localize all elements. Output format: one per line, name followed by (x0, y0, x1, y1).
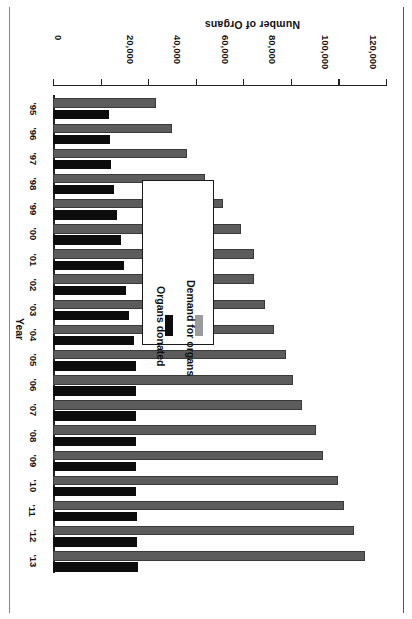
value-tick-label: 100,000 (320, 35, 331, 69)
category-label: '09 (27, 454, 38, 467)
bar-demand-for-organs (53, 526, 354, 535)
bar-organs-donated (53, 135, 110, 144)
bar-organs-donated (53, 110, 109, 119)
value-tick (196, 79, 197, 86)
bar-demand-for-organs (53, 124, 172, 133)
bar-group (53, 271, 386, 296)
bar-organs-donated (53, 210, 117, 219)
bar-organs-donated (53, 512, 137, 521)
category-label: '99 (27, 203, 38, 216)
value-tick (386, 79, 387, 86)
category-label: '95 (27, 102, 38, 115)
bar-organs-donated (53, 261, 124, 270)
bar-chart: 020,00040,00060,00080,000100,000120,0001… (26, 25, 386, 573)
bar-organs-donated (53, 411, 136, 420)
value-axis-line (54, 85, 386, 86)
legend-label-demand: Demand for organs (185, 280, 197, 376)
bar-organs-donated (53, 437, 136, 446)
category-label: '04 (27, 329, 38, 342)
category-axis-title: Year (14, 318, 26, 340)
bar-group (53, 246, 386, 271)
bar-organs-donated (53, 235, 121, 244)
bar-group (53, 221, 386, 246)
bar-organs-donated (53, 336, 134, 345)
value-tick-label: 0 (53, 35, 64, 40)
category-label: '97 (27, 152, 38, 165)
value-axis-title: Number of Organs (205, 19, 300, 31)
rotated-scan-content: 020,00040,00060,00080,000100,000120,0001… (0, 0, 412, 619)
value-tick (338, 79, 339, 86)
bar-organs-donated (53, 185, 114, 194)
bar-organs-donated (53, 311, 129, 320)
category-label: '03 (27, 303, 38, 316)
category-label: '98 (27, 178, 38, 191)
chart-legend: Demand for organs Organs donated (142, 180, 214, 345)
value-tick-label: 20,000 (125, 35, 136, 64)
category-label: '07 (27, 404, 38, 417)
bar-demand-for-organs (53, 149, 187, 158)
category-label: '00 (27, 228, 38, 241)
category-label: '13 (27, 555, 38, 568)
category-label: '02 (27, 278, 38, 291)
scan-border-right (9, 7, 10, 613)
value-tick-label: 40,000 (172, 35, 183, 64)
plot-area (53, 95, 386, 573)
bar-group (53, 548, 386, 573)
chart-page: 020,00040,00060,00080,000100,000120,0001… (0, 0, 412, 619)
scan-border-left (403, 7, 404, 613)
category-label: '08 (27, 429, 38, 442)
value-tick (243, 79, 244, 86)
bar-demand-for-organs (53, 98, 156, 107)
value-tick (291, 79, 292, 86)
bar-demand-for-organs (53, 451, 323, 460)
bar-group (53, 372, 386, 397)
value-tick-label: 80,000 (267, 35, 278, 64)
value-tick (53, 79, 54, 86)
legend-item-donated: Organs donated (165, 315, 173, 336)
category-label: '12 (27, 530, 38, 543)
bar-organs-donated (53, 286, 126, 295)
legend-label-donated: Organs donated (155, 286, 167, 367)
bar-group (53, 120, 386, 145)
category-label: '96 (27, 127, 38, 140)
category-label: '05 (27, 354, 38, 367)
category-label: '06 (27, 379, 38, 392)
bar-organs-donated (53, 462, 136, 471)
value-tick-label: 60,000 (220, 35, 231, 64)
bar-demand-for-organs (53, 501, 344, 510)
value-tick-label: 120,000 (368, 35, 379, 69)
bar-group (53, 95, 386, 120)
value-tick (101, 79, 102, 86)
bar-group (53, 422, 386, 447)
category-label: '10 (27, 479, 38, 492)
bar-group (53, 498, 386, 523)
bar-organs-donated (53, 160, 111, 169)
bar-group (53, 347, 386, 372)
bar-group (53, 296, 386, 321)
bar-organs-donated (53, 361, 136, 370)
bar-organs-donated (53, 537, 137, 546)
bar-demand-for-organs (53, 551, 365, 560)
bar-group (53, 196, 386, 221)
bar-group (53, 397, 386, 422)
bar-demand-for-organs (53, 476, 338, 485)
bar-group (53, 145, 386, 170)
bar-demand-for-organs (53, 400, 302, 409)
bar-group (53, 523, 386, 548)
bar-group (53, 447, 386, 472)
bar-organs-donated (53, 487, 136, 496)
bar-demand-for-organs (53, 375, 293, 384)
bar-demand-for-organs (53, 350, 286, 359)
bar-group (53, 322, 386, 347)
value-tick (148, 79, 149, 86)
bar-organs-donated (53, 562, 138, 571)
bar-organs-donated (53, 386, 136, 395)
category-label: '01 (27, 253, 38, 266)
bar-group (53, 472, 386, 497)
category-label: '11 (27, 505, 38, 517)
bar-demand-for-organs (53, 425, 316, 434)
bar-group (53, 171, 386, 196)
legend-item-demand: Demand for organs (195, 315, 203, 336)
